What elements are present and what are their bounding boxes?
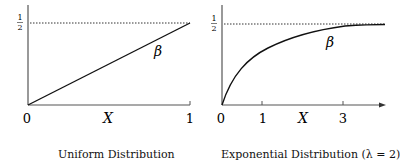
left-tick-1-label: 1 xyxy=(186,111,194,126)
right-tick-0-label: 0 xyxy=(217,111,225,126)
right-half-num: 1 xyxy=(211,14,216,23)
right-x-arrow-icon xyxy=(379,103,386,108)
left-caption: Uniform Distribution xyxy=(58,148,175,160)
right-caption: Exponential Distribution (λ = 2) xyxy=(221,148,400,160)
left-beta-label: β xyxy=(153,43,162,59)
left-half-den: 2 xyxy=(17,23,22,32)
right-x-label: X xyxy=(297,110,309,126)
left-tick-0-label: 0 xyxy=(23,111,31,126)
right-tick-3-label: 3 xyxy=(339,111,347,126)
right-half-den: 2 xyxy=(211,24,216,33)
right-beta-label: β xyxy=(325,34,334,50)
left-x-label: X xyxy=(102,110,114,126)
left-curve xyxy=(28,23,190,105)
right-tick-1-label: 1 xyxy=(259,111,267,126)
figure: 1 2 0 1 X β 1 2 0 1 3 X β xyxy=(0,0,400,160)
uniform-plot: 1 2 0 1 X β xyxy=(17,5,194,126)
left-half-num: 1 xyxy=(17,13,22,22)
right-curve xyxy=(222,25,385,106)
exponential-plot: 1 2 0 1 3 X β xyxy=(211,5,386,126)
